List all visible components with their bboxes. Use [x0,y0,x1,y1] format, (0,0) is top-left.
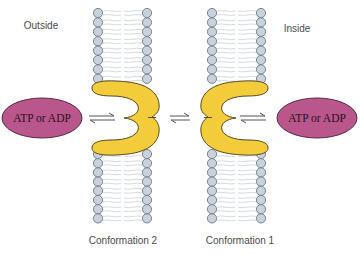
lipid-head [256,177,265,186]
lipid-head [142,8,151,17]
lipid-head [256,27,265,36]
lipid-head [256,195,265,204]
lipid-head [93,195,102,204]
lipid-head [207,8,216,17]
diagram-canvas: ATP or ADP ATP or ADP Outside Inside Con… [0,0,360,255]
lipid-head [93,214,102,223]
ligand-right: ATP or ADP [277,98,357,138]
lipid-head [256,168,265,177]
lipid-head [256,186,265,195]
lipid-head [256,159,265,168]
lipid-head [256,205,265,214]
lipid-head [142,168,151,177]
lipid-head [93,159,102,168]
ligand-left: ATP or ADP [2,98,82,138]
lipid-head [142,186,151,195]
lipid-head [207,65,216,74]
lipid-head [142,149,151,158]
lipid-head [207,74,216,83]
lipid-head [93,177,102,186]
inside-label: Inside [284,23,311,34]
lipid-head [142,214,151,223]
lipid-head [207,214,216,223]
lipid-head [93,37,102,46]
ligand-left-label: ATP or ADP [13,112,71,124]
lipid-head [256,8,265,17]
lipid-head [142,55,151,64]
lipid-head [142,18,151,27]
protein-conformation-2 [92,81,159,155]
lipid-head [93,27,102,36]
lipid-head [142,27,151,36]
lipid-head [142,177,151,186]
lipid-head [207,186,216,195]
lipid-head [93,46,102,55]
lipid-head [256,55,265,64]
lipid-head [207,149,216,158]
lipid-head [207,159,216,168]
lipid-head [207,18,216,27]
outside-label: Outside [24,20,59,31]
lipid-head [93,65,102,74]
lipid-head [142,205,151,214]
equilibrium-arrow-right [240,113,266,123]
lipid-head [142,46,151,55]
lipid-head [207,168,216,177]
lipid-head [256,46,265,55]
ligand-right-label: ATP or ADP [288,112,346,124]
lipid-head [256,214,265,223]
lipid-head [207,205,216,214]
lipid-head [256,18,265,27]
lipid-head [142,195,151,204]
protein-conformation-1 [201,81,268,155]
equilibrium-arrow-left [89,113,115,123]
lipid-head [142,159,151,168]
lipid-head [142,65,151,74]
lipid-head [256,37,265,46]
lipid-head [207,195,216,204]
lipid-head [93,168,102,177]
lipid-head [207,177,216,186]
lipid-head [207,46,216,55]
lipid-head [93,8,102,17]
equilibrium-arrows [89,113,266,123]
lipid-head [256,65,265,74]
lipid-head [93,205,102,214]
lipid-head [207,55,216,64]
lipid-head [142,74,151,83]
lipid-head [207,37,216,46]
equilibrium-arrow-center [170,113,190,123]
lipid-head [93,18,102,27]
lipid-head [93,55,102,64]
lipid-head [93,186,102,195]
conformation-2-label: Conformation 2 [89,235,158,246]
lipid-head [142,37,151,46]
lipid-head [207,27,216,36]
conformation-1-label: Conformation 1 [206,235,275,246]
